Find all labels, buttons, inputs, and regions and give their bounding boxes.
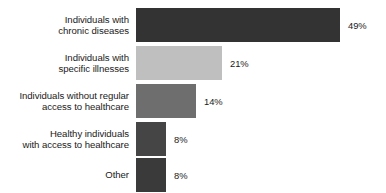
category-label-line: access to healthcare xyxy=(42,101,129,112)
category-label-line: Healthy individuals xyxy=(50,128,129,139)
horizontal-bar-chart: Individuals with chronic diseases 49% In… xyxy=(0,0,386,193)
bar xyxy=(136,84,196,118)
bar xyxy=(136,122,166,156)
bar-value-label: 14% xyxy=(204,96,223,107)
bar-row: Other 8% xyxy=(0,158,386,192)
category-label-line: specific illnesses xyxy=(58,63,129,74)
bar-row: Individuals with specific illnesses 21% xyxy=(0,46,386,80)
bar xyxy=(136,46,222,80)
category-label-line: Individuals with xyxy=(65,14,129,25)
bar-track: 14% xyxy=(136,84,223,118)
category-label: Individuals without regular access to he… xyxy=(0,84,136,118)
bar-track: 21% xyxy=(136,46,249,80)
bar-value-label: 8% xyxy=(174,170,187,181)
bar-track: 8% xyxy=(136,122,187,156)
bar-value-label: 8% xyxy=(174,134,187,145)
category-label-line: chronic diseases xyxy=(58,25,129,36)
bar-value-label: 21% xyxy=(230,58,249,69)
bar-value-label: 49% xyxy=(348,20,367,31)
bar xyxy=(136,8,340,42)
bar xyxy=(136,158,166,192)
bar-row: Individuals without regular access to he… xyxy=(0,84,386,118)
category-label: Healthy individuals with access to healt… xyxy=(0,122,136,156)
bar-track: 8% xyxy=(136,158,187,192)
bar-track: 49% xyxy=(136,8,367,42)
category-label: Individuals with chronic diseases xyxy=(0,8,136,42)
category-label: Individuals with specific illnesses xyxy=(0,46,136,80)
category-label-line: Other xyxy=(105,169,129,180)
bar-row: Healthy individuals with access to healt… xyxy=(0,122,386,156)
bar-row: Individuals with chronic diseases 49% xyxy=(0,8,386,42)
category-label-line: Individuals with xyxy=(65,52,129,63)
category-label-line: Individuals without regular xyxy=(19,90,129,101)
category-label: Other xyxy=(0,158,136,192)
category-label-line: with access to healthcare xyxy=(23,139,129,150)
